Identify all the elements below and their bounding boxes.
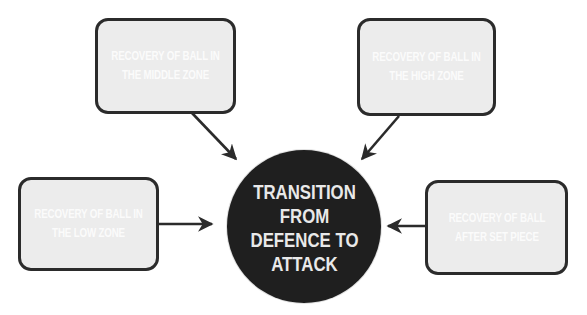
node-set-piece-line-1: RECOVERY OF BALL bbox=[448, 211, 545, 225]
transition-diagram: RECOVERY OF BALL IN THE MIDDLE ZONE RECO… bbox=[0, 0, 587, 315]
node-middle-zone-label: RECOVERY OF BALL IN THE MIDDLE ZONE bbox=[111, 47, 219, 85]
node-middle-zone-line-1: RECOVERY OF BALL IN bbox=[111, 49, 219, 63]
center-node-label: TRANSITION FROM DEFENCE TO ATTACK bbox=[250, 180, 358, 276]
node-set-piece: RECOVERY OF BALL AFTER SET PIECE bbox=[425, 180, 568, 275]
node-low-zone: RECOVERY OF BALL IN THE LOW ZONE bbox=[18, 177, 159, 271]
node-high-zone-line-2: THE HIGH ZONE bbox=[389, 69, 463, 83]
node-high-zone-line-1: RECOVERY OF BALL IN bbox=[372, 50, 480, 64]
node-low-zone-line-2: THE LOW ZONE bbox=[52, 226, 125, 240]
center-node-line-3: DEFENCE TO bbox=[250, 228, 358, 252]
node-middle-zone-line-2: THE MIDDLE ZONE bbox=[122, 68, 209, 82]
node-set-piece-line-2: AFTER SET PIECE bbox=[455, 230, 539, 244]
node-middle-zone: RECOVERY OF BALL IN THE MIDDLE ZONE bbox=[95, 18, 236, 114]
center-node-transition: TRANSITION FROM DEFENCE TO ATTACK bbox=[227, 150, 381, 303]
node-low-zone-label: RECOVERY OF BALL IN THE LOW ZONE bbox=[34, 205, 142, 243]
node-high-zone: RECOVERY OF BALL IN THE HIGH ZONE bbox=[357, 18, 496, 116]
center-node-line-1: TRANSITION bbox=[253, 180, 356, 204]
center-node-line-2: FROM bbox=[279, 204, 328, 228]
node-low-zone-line-1: RECOVERY OF BALL IN bbox=[34, 207, 142, 221]
center-node-line-4: ATTACK bbox=[271, 252, 338, 276]
arrow-middle-zone-to-center bbox=[192, 113, 236, 159]
node-set-piece-label: RECOVERY OF BALL AFTER SET PIECE bbox=[448, 209, 545, 247]
node-high-zone-label: RECOVERY OF BALL IN THE HIGH ZONE bbox=[372, 48, 480, 86]
arrow-high-zone-to-center bbox=[362, 116, 399, 159]
